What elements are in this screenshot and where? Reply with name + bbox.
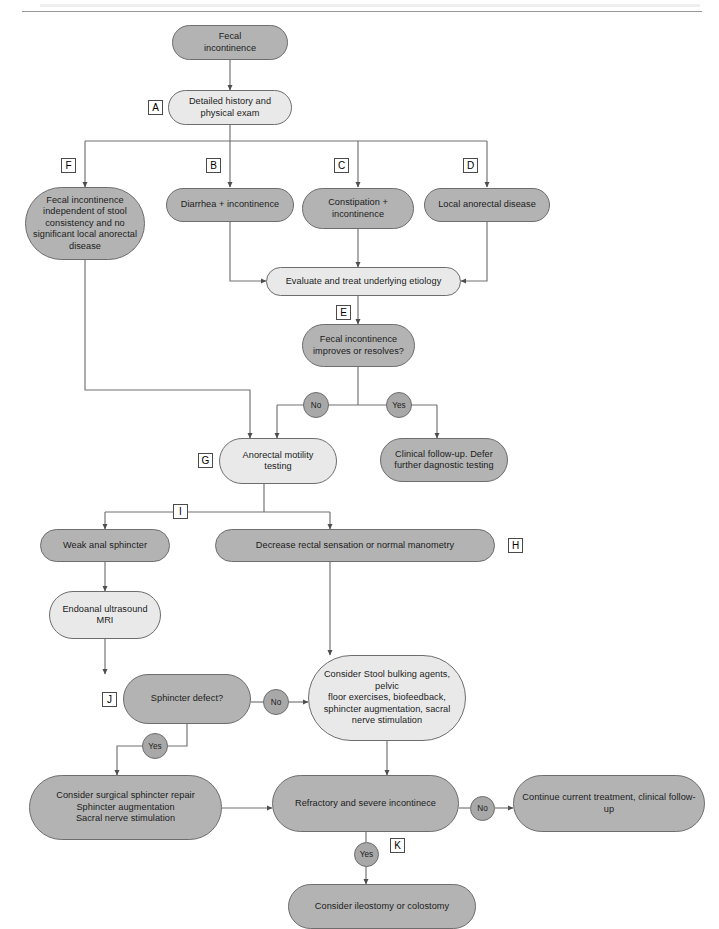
node-label: Fecal incontinence bbox=[204, 31, 256, 54]
node-label: Anorectal motility testing bbox=[243, 450, 314, 473]
node-fecal-incontinence[interactable]: Fecal incontinence bbox=[172, 25, 288, 60]
tag-a: A bbox=[148, 100, 163, 115]
badge-label: Yes bbox=[148, 742, 161, 751]
node-label: Detailed history and physical exam bbox=[189, 96, 271, 119]
node-endoanal-ultrasound-mri[interactable]: Endoanal ultrasound MRI bbox=[49, 591, 161, 639]
tag-h: H bbox=[508, 538, 523, 553]
node-label: Consider ileostomy or colostomy bbox=[315, 901, 449, 913]
tag-f: F bbox=[61, 158, 76, 173]
tag-k: K bbox=[390, 838, 405, 853]
node-label: Fecal incontinence improves or resolves? bbox=[313, 334, 404, 357]
node-detailed-history[interactable]: Detailed history and physical exam bbox=[168, 90, 292, 125]
node-decrease-rectal-sensation[interactable]: Decrease rectal sensation or normal mano… bbox=[215, 529, 495, 562]
node-refractory-incontinence[interactable]: Refractory and severe incontinece bbox=[272, 775, 459, 832]
badge-yes-k: Yes bbox=[354, 842, 379, 867]
node-continue-current-treatment[interactable]: Continue current treatment, clinical fol… bbox=[513, 775, 705, 832]
wire-f-to-motility bbox=[85, 260, 250, 438]
node-constipation-incontinence[interactable]: Constipation + incontinence bbox=[302, 188, 414, 229]
node-label: Sphincter defect? bbox=[151, 693, 223, 705]
tag-e: E bbox=[336, 305, 351, 320]
node-label: Refractory and severe incontinece bbox=[295, 798, 436, 810]
node-local-anorectal-disease[interactable]: Local anorectal disease bbox=[424, 188, 550, 222]
node-improves-or-resolves[interactable]: Fecal incontinence improves or resolves? bbox=[302, 324, 415, 367]
wire-yes-to-surgical bbox=[117, 746, 142, 775]
badge-yes-j: Yes bbox=[142, 733, 168, 759]
badge-no-k: No bbox=[470, 796, 495, 821]
wire-local-to-evaluate bbox=[461, 222, 487, 281]
badge-label: No bbox=[477, 804, 487, 813]
badge-no-e: No bbox=[303, 392, 329, 418]
header-rule bbox=[22, 11, 702, 12]
node-fecal-independent[interactable]: Fecal incontinence independent of stool … bbox=[25, 187, 145, 260]
node-label: Evaluate and treat underlying etiology bbox=[286, 276, 442, 288]
node-label: Endoanal ultrasound MRI bbox=[62, 604, 147, 627]
badge-label: No bbox=[271, 698, 281, 707]
node-clinical-followup[interactable]: Clinical follow-up. Defer further dagnos… bbox=[380, 438, 508, 482]
flowchart-page: Fecal incontinence Detailed history and … bbox=[0, 0, 719, 929]
node-label: Consider Stool bulking agents, pelvic fl… bbox=[315, 669, 459, 727]
node-sphincter-defect[interactable]: Sphincter defect? bbox=[123, 674, 251, 724]
node-label: Fecal incontinence independent of stool … bbox=[33, 195, 137, 253]
badge-label: Yes bbox=[360, 850, 373, 859]
node-label: Local anorectal disease bbox=[438, 199, 536, 211]
node-diarrhea-incontinence[interactable]: Diarrhea + incontinence bbox=[166, 188, 294, 222]
node-surgical-sphincter-repair[interactable]: Consider surgical sphincter repair Sphin… bbox=[29, 775, 222, 840]
tag-g: G bbox=[198, 453, 213, 468]
badge-no-j: No bbox=[263, 689, 289, 715]
badge-yes-e: Yes bbox=[386, 392, 412, 418]
wire-diarrhea-to-evaluate bbox=[230, 222, 266, 281]
badge-label: Yes bbox=[392, 401, 405, 410]
node-consider-stool-bulking[interactable]: Consider Stool bulking agents, pelvic fl… bbox=[308, 655, 466, 741]
node-label: Decrease rectal sensation or normal mano… bbox=[256, 540, 454, 552]
tag-i: I bbox=[173, 504, 188, 519]
tag-d: D bbox=[463, 158, 478, 173]
tag-b: B bbox=[206, 158, 221, 173]
header-rule-light bbox=[40, 4, 700, 7]
node-anorectal-motility-testing[interactable]: Anorectal motility testing bbox=[219, 438, 337, 484]
node-label: Consider surgical sphincter repair Sphin… bbox=[56, 790, 195, 825]
wire-defect-to-yes bbox=[168, 724, 187, 746]
badge-label: No bbox=[311, 401, 321, 410]
node-label: Clinical follow-up. Defer further dagnos… bbox=[394, 449, 493, 472]
tag-c: C bbox=[334, 158, 349, 173]
node-weak-anal-sphincter[interactable]: Weak anal sphincter bbox=[40, 529, 170, 562]
node-label: Continue current treatment, clinical fol… bbox=[520, 792, 698, 815]
node-label: Constipation + incontinence bbox=[328, 197, 388, 220]
tag-j: J bbox=[102, 692, 117, 707]
node-evaluate-treat-etiology[interactable]: Evaluate and treat underlying etiology bbox=[266, 267, 461, 296]
node-consider-ileostomy[interactable]: Consider ileostomy or colostomy bbox=[288, 884, 476, 929]
node-label: Diarrhea + incontinence bbox=[181, 199, 279, 211]
node-label: Weak anal sphincter bbox=[63, 540, 147, 552]
